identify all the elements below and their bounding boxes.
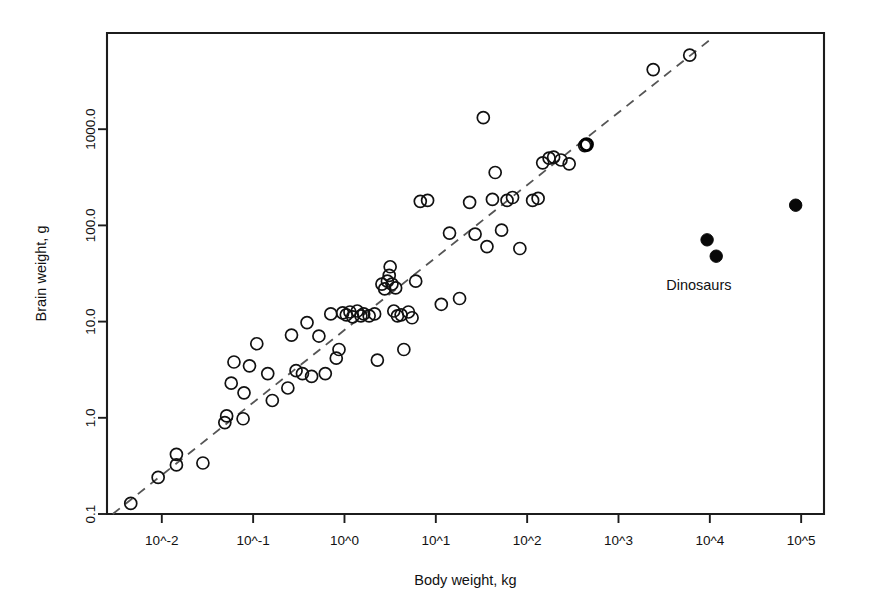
data-point-open: [464, 196, 476, 208]
data-point-open: [319, 368, 331, 380]
x-tick-label: 10^4: [695, 533, 724, 548]
data-point-open: [481, 241, 493, 253]
data-point-open: [489, 166, 501, 178]
data-point-open: [228, 356, 240, 368]
data-point-filled: [789, 199, 801, 211]
data-point-open: [477, 112, 489, 124]
data-point-open: [398, 344, 410, 356]
series-mammals: [125, 49, 696, 509]
plot-border: [107, 33, 824, 514]
data-point-open: [243, 360, 255, 372]
data-point-open: [251, 338, 263, 350]
data-point-open: [486, 193, 498, 205]
data-point-open: [384, 261, 396, 273]
x-tick-label: 10^3: [604, 533, 633, 548]
data-point-filled: [710, 250, 722, 262]
data-point-filled: [701, 234, 713, 246]
plot-frame: [107, 33, 824, 514]
y-tick-label: 100.0: [83, 209, 98, 243]
data-point-open: [152, 471, 164, 483]
y-tick-label: 1.0: [83, 408, 98, 427]
x-axis-title: Body weight, kg: [414, 572, 516, 588]
scatter-plot-figure: 10^-210^-110^010^110^210^310^410^50.11.0…: [0, 0, 869, 616]
y-tick-label: 1000.0: [83, 109, 98, 150]
annotation-dinosaurs: Dinosaurs: [666, 277, 731, 293]
data-point-open: [301, 317, 313, 329]
data-point-open: [197, 457, 209, 469]
data-point-open: [454, 293, 466, 305]
data-point-open: [422, 194, 434, 206]
x-tick-label: 10^-1: [236, 533, 269, 548]
y-tick-label: 10.0: [83, 308, 98, 334]
data-point-open: [282, 382, 294, 394]
data-point-open: [514, 242, 526, 254]
data-point-open: [266, 394, 278, 406]
data-point-open: [225, 377, 237, 389]
x-tick-label: 10^2: [513, 533, 542, 548]
data-point-open: [496, 224, 508, 236]
data-point-open: [469, 228, 481, 240]
data-point-open: [238, 387, 250, 399]
y-axis-title: Brain weight, g: [33, 226, 49, 322]
y-tick-label: 0.1: [83, 505, 98, 524]
plot-canvas: 10^-210^-110^010^110^210^310^410^50.11.0…: [0, 0, 869, 616]
data-point-open: [286, 329, 298, 341]
x-tick-label: 10^5: [787, 533, 816, 548]
data-point-open: [325, 308, 337, 320]
data-point-open: [237, 413, 249, 425]
data-point-open: [262, 368, 274, 380]
y-axis-ticks: [98, 129, 107, 514]
data-point-open: [410, 275, 422, 287]
series-dinosaurs: [701, 199, 802, 262]
x-axis-ticks: [162, 514, 801, 523]
data-point-open: [371, 354, 383, 366]
axis-titles-and-annotations: 10^-210^-110^010^110^210^310^410^50.11.0…: [33, 109, 816, 588]
data-point-open: [444, 227, 456, 239]
data-point-open: [647, 64, 659, 76]
data-point-open: [221, 410, 233, 422]
x-tick-label: 10^1: [421, 533, 450, 548]
data-point-open: [435, 298, 447, 310]
x-tick-label: 10^-2: [145, 533, 178, 548]
data-point-open: [313, 330, 325, 342]
x-tick-label: 10^0: [330, 533, 359, 548]
